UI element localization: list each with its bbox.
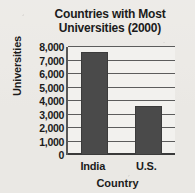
y-tick-label: 0: [22, 150, 64, 160]
plot-area: [66, 47, 175, 155]
chart-title-line-2: Universities (2000): [28, 21, 192, 35]
chart-title-line-1: Countries with Most: [28, 7, 192, 21]
x-axis-tick-labels: IndiaU.S.: [66, 160, 173, 174]
y-tick-label: 7,000: [22, 56, 64, 66]
bar-u-s: [135, 106, 162, 155]
chart-title: Countries with Most Universities (2000): [28, 7, 192, 35]
bar-chart-figure: Countries with Most Universities (2000) …: [0, 0, 195, 193]
y-tick-label: 1,000: [22, 137, 64, 147]
x-tick-label: U.S.: [120, 160, 174, 172]
y-tick-label: 3,000: [22, 110, 64, 120]
gridline: [68, 46, 175, 47]
y-axis-tick-labels: 01,0002,0003,0004,0005,0006,0007,0008,00…: [22, 41, 64, 161]
y-tick-label: 6,000: [22, 69, 64, 79]
x-axis-title: Country: [60, 177, 175, 189]
y-tick-label: 4,000: [22, 96, 64, 106]
y-tick-label: 5,000: [22, 83, 64, 93]
x-tick-label: India: [66, 160, 120, 172]
bar-india: [81, 52, 108, 155]
y-tick-label: 8,000: [22, 42, 64, 52]
y-tick-label: 2,000: [22, 123, 64, 133]
